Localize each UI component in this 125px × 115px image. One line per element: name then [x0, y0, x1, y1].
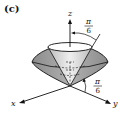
y-axis	[70, 86, 108, 102]
panel-label: (c)	[4, 3, 20, 14]
upper-angle-arc	[73, 33, 96, 40]
x-axis-arrowhead	[19, 100, 25, 104]
x-label: x	[11, 99, 16, 108]
lower-angle-label: π 6	[94, 77, 103, 95]
cone-edge-extension	[92, 34, 100, 47]
x-axis	[22, 86, 70, 102]
cone-diagram: (c) z π 6 x y π 6	[0, 0, 125, 115]
svg-text:6: 6	[87, 27, 92, 35]
lower-angle-arc	[84, 80, 86, 92]
y-label: y	[112, 99, 118, 108]
y-axis-arrowhead	[105, 100, 111, 105]
upper-angle-label: π 6	[85, 17, 94, 35]
svg-text:6: 6	[96, 87, 101, 95]
svg-text:π: π	[94, 77, 101, 86]
upper-angle-arrowhead	[71, 32, 75, 35]
svg-text:π: π	[85, 17, 92, 26]
z-axis-arrowhead	[68, 19, 72, 24]
z-label: z	[67, 9, 73, 18]
